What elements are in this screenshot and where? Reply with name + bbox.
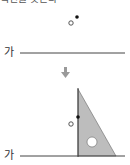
triangle-hole [87, 137, 97, 147]
filled-point-icon [75, 15, 79, 19]
diagram-canvas [0, 0, 130, 165]
filled-point-icon [76, 115, 80, 119]
step1-group [20, 15, 125, 53]
set-square-triangle [78, 89, 116, 156]
open-point-icon [69, 21, 73, 25]
down-arrow-icon [61, 67, 70, 78]
step2-group [20, 88, 125, 157]
open-point-icon [69, 122, 73, 126]
